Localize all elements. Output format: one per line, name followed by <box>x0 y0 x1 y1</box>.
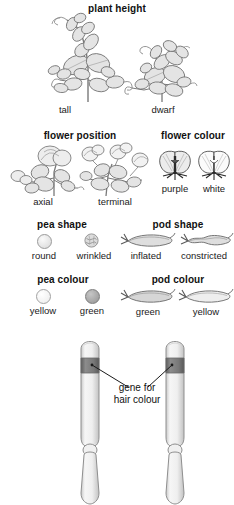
caption-green-pea: green <box>68 305 116 316</box>
pod-inflated-icon <box>120 232 176 249</box>
gene-annotation-line-1: gene for <box>95 382 179 394</box>
pea-yellow-icon <box>36 289 51 304</box>
flower-purple-icon <box>157 146 193 182</box>
flower-white-icon <box>196 146 232 182</box>
pea-round-icon <box>37 234 52 249</box>
caption-yellow-pod: yellow <box>178 306 234 317</box>
heading-pod-shape: pod shape <box>128 219 228 230</box>
caption-wrinkled: wrinkled <box>66 250 122 261</box>
caption-constricted: constricted <box>172 250 234 261</box>
flower-terminal-icon <box>78 142 150 198</box>
pea-green-icon <box>85 289 100 304</box>
flower-axial-icon <box>10 144 84 198</box>
chromosome-left <box>81 342 99 505</box>
heading-pod-colour: pod colour <box>128 274 228 285</box>
heading-pea-shape: pea shape <box>12 219 112 230</box>
pea-traits-diagram: plant height <box>0 0 234 505</box>
caption-yellow-pea: yellow <box>18 305 68 316</box>
pod-yellow-icon <box>178 288 234 305</box>
chromosome-right <box>166 342 184 505</box>
gene-annotation-line-2: hair colour <box>95 394 179 406</box>
caption-green-pod: green <box>120 306 176 317</box>
pea-wrinkled-icon <box>84 233 99 248</box>
chromosome-panel <box>0 325 234 505</box>
caption-terminal: terminal <box>75 196 155 207</box>
caption-purple: purple <box>152 183 198 194</box>
heading-flower-colour: flower colour <box>152 130 234 141</box>
pod-constricted-icon <box>180 232 234 249</box>
pod-green-icon <box>120 288 176 305</box>
caption-inflated: inflated <box>118 250 174 261</box>
caption-axial: axial <box>7 196 79 207</box>
caption-white: white <box>193 183 234 194</box>
caption-round: round <box>20 250 68 261</box>
heading-flower-position: flower position <box>10 130 150 141</box>
caption-dwarf: dwarf <box>118 104 208 115</box>
pea-plant-dwarf-icon <box>122 36 202 102</box>
caption-tall: tall <box>20 104 110 115</box>
heading-pea-colour: pea colour <box>10 274 116 285</box>
